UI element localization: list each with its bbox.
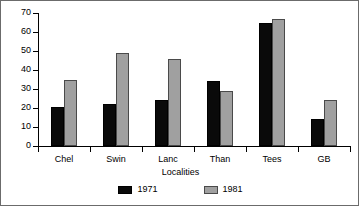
x-axis-tick-mark <box>350 147 351 152</box>
chart-figure: 010203040506070 ChelSwinLancThanTeesGB L… <box>0 0 359 206</box>
legend-swatch-1971 <box>118 186 132 194</box>
y-axis-tick-label: 10 <box>21 121 33 132</box>
x-axis-tick-mark <box>142 147 143 152</box>
x-axis-category-label: Tees <box>262 154 281 165</box>
bar-swin-1981 <box>116 53 129 146</box>
y-axis-tick-label: 30 <box>21 83 33 94</box>
bar-gb-1981 <box>324 100 337 146</box>
x-axis-tick-mark <box>90 147 91 152</box>
bar-swin-1971 <box>103 104 116 146</box>
plot-area <box>38 13 350 146</box>
x-axis-tick-mark <box>194 147 195 152</box>
x-axis-category-label: GB <box>317 154 330 165</box>
x-axis-title: Localities <box>1 167 359 177</box>
y-axis-tick-label: 40 <box>21 64 33 75</box>
x-axis-tick-mark <box>298 147 299 152</box>
y-axis-tick-label: 0 <box>26 140 33 151</box>
bar-than-1971 <box>207 81 220 146</box>
bar-chel-1971 <box>51 107 64 146</box>
bar-tees-1981 <box>272 19 285 146</box>
bar-gb-1971 <box>311 119 324 146</box>
x-axis-tick-mark <box>246 147 247 152</box>
y-axis-tick-label: 50 <box>21 45 33 56</box>
legend-label-1981: 1981 <box>223 184 243 195</box>
x-axis-category-label: Lanc <box>158 154 178 165</box>
bar-than-1981 <box>220 91 233 146</box>
chart-legend: 19711981 <box>1 184 359 195</box>
legend-label-1971: 1971 <box>137 184 157 195</box>
legend-item-1971: 1971 <box>118 184 157 195</box>
y-axis-tick-label: 70 <box>21 7 33 18</box>
x-axis-category-label: Chel <box>55 154 74 165</box>
x-axis-category-label: Than <box>210 154 231 165</box>
x-axis-tick-mark <box>38 147 39 152</box>
bar-tees-1971 <box>259 23 272 147</box>
bar-chel-1981 <box>64 80 77 147</box>
legend-item-1981: 1981 <box>204 184 243 195</box>
bar-lanc-1971 <box>155 100 168 146</box>
y-axis-tick-label: 20 <box>21 102 33 113</box>
x-axis-category-label: Swin <box>106 154 126 165</box>
legend-swatch-1981 <box>204 186 218 194</box>
y-axis-tick-label: 60 <box>21 26 33 37</box>
bar-lanc-1981 <box>168 59 181 146</box>
